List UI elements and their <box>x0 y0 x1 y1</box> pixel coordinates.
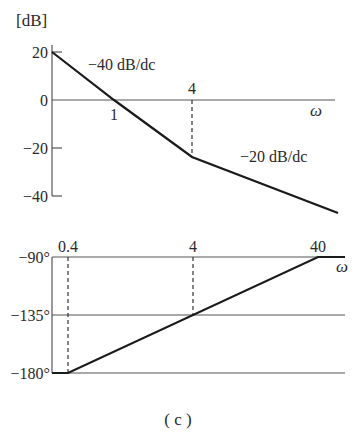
mag-tick-m20: −20 <box>23 140 48 157</box>
mag-unit-label: [dB] <box>16 11 47 30</box>
slope1-label: −40 dB/dc <box>88 56 155 73</box>
mag-marker-1: 1 <box>110 106 118 123</box>
phase-plot: −90° −135° −180° 0.4 4 40 ω <box>11 238 348 382</box>
magnitude-plot: [dB] 20 0 −20 −40 1 4 ω −40 dB/dc −20 dB… <box>16 11 338 213</box>
phase-marker-4: 4 <box>189 238 197 255</box>
phase-tick-m180: −180° <box>11 365 50 382</box>
mag-marker-4: 4 <box>188 80 196 97</box>
phase-marker-40: 40 <box>310 238 326 255</box>
phase-tick-m90: −90° <box>19 249 50 266</box>
phase-omega-label: ω <box>336 257 348 276</box>
slope2-label: −20 dB/dc <box>240 148 307 165</box>
figure-caption: ( c ) <box>164 410 191 429</box>
phase-marker-0.4: 0.4 <box>58 238 78 255</box>
phase-tick-m135: −135° <box>11 307 50 324</box>
mag-tick-20: 20 <box>32 44 48 61</box>
mag-tick-m40: −40 <box>23 188 48 205</box>
mag-asymptote <box>52 52 338 213</box>
mag-tick-0: 0 <box>40 92 48 109</box>
bode-diagram: [dB] 20 0 −20 −40 1 4 ω −40 dB/dc −20 dB… <box>0 0 357 445</box>
mag-omega-label: ω <box>310 101 322 120</box>
